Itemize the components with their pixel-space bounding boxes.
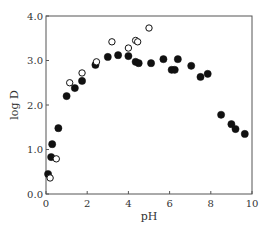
- filled-circle-marker: [232, 125, 239, 132]
- plot-frame: [46, 16, 252, 194]
- filled-circle-marker: [147, 60, 154, 67]
- filled-circle-marker: [197, 73, 204, 80]
- open-circle-marker: [47, 175, 53, 181]
- filled-circle-marker: [63, 93, 70, 100]
- open-circle-marker: [134, 39, 140, 45]
- y-tick-label: 3.0: [27, 55, 43, 66]
- y-tick-label: 1.0: [27, 144, 43, 155]
- x-tick-label: 0: [43, 198, 49, 209]
- scatter-chart: 0246810 0.01.02.03.04.0 pH log D: [0, 0, 271, 229]
- y-tick-label: 4.0: [27, 11, 43, 22]
- filled-circle-marker: [135, 60, 142, 67]
- x-tick-label: 8: [208, 198, 214, 209]
- filled-circle-marker: [55, 125, 62, 132]
- filled-circle-marker: [188, 62, 195, 69]
- y-axis-label: log D: [8, 90, 21, 120]
- filled-circle-marker: [204, 70, 211, 77]
- filled-circle-marker: [218, 111, 225, 118]
- x-tick-label: 6: [166, 198, 172, 209]
- open-circle-marker: [125, 45, 131, 51]
- open-circle-marker: [93, 59, 99, 65]
- y-tick-label: 2.0: [27, 100, 43, 111]
- filled-circle-marker: [104, 53, 111, 60]
- open-circle-marker: [109, 39, 115, 45]
- filled-circle-marker: [71, 84, 78, 91]
- x-axis-label: pH: [141, 210, 158, 223]
- filled-circle-marker: [171, 66, 178, 73]
- open-circle-marker: [53, 156, 59, 162]
- filled-circle-marker: [78, 77, 85, 84]
- x-tick-label: 10: [246, 198, 259, 209]
- y-tick-label: 0.0: [27, 189, 43, 200]
- filled-circle-marker: [174, 56, 181, 63]
- filled-circle-marker: [115, 52, 122, 59]
- x-tick-label: 4: [125, 198, 131, 209]
- filled-circle-marker: [49, 141, 56, 148]
- open-circle-marker: [66, 80, 72, 86]
- open-circle-marker: [146, 25, 152, 31]
- filled-circle-marker: [241, 130, 248, 137]
- filled-circle-marker: [160, 56, 167, 63]
- open-circle-marker: [79, 70, 85, 76]
- data-points: [44, 25, 248, 181]
- x-tick-label: 2: [84, 198, 90, 209]
- filled-circle-marker: [125, 52, 132, 59]
